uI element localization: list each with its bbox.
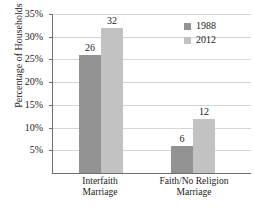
y-tick-label-10: 10% (9, 123, 43, 133)
legend-swatch-1988-icon (184, 23, 191, 30)
legend-label-1988: 1988 (196, 20, 216, 32)
bar-faith-no-religion-2012: 12 (193, 119, 215, 174)
y-tick-label-35: 35% (9, 9, 43, 19)
bar-value-interfaith-1988: 26 (85, 43, 95, 53)
x-category-label-faith-no-religion: Faith/No Religion Marriage (144, 176, 244, 198)
x-category-label-faith-no-religion-line1: Faith/No Religion (144, 176, 244, 187)
legend-label-2012: 2012 (196, 34, 216, 46)
y-tick-label-30: 30% (9, 32, 43, 42)
y-tick-label-20: 20% (9, 77, 43, 87)
x-category-label-interfaith-line2: Marriage (58, 187, 142, 198)
y-tick-20: 20% (49, 82, 53, 83)
bar-value-faith-no-religion-1988: 6 (180, 134, 185, 144)
legend-swatch-2012-icon (184, 37, 191, 44)
y-tick-label-25: 25% (9, 54, 43, 64)
bar-faith-no-religion-1988: 6 (171, 146, 193, 173)
y-tick-15: 15% (49, 105, 53, 106)
bar-chart: Percentage of Households 35% 30% 25% 20%… (0, 0, 254, 208)
chart-title-cropped (0, 0, 254, 6)
y-axis-title: Percentage of Households (13, 0, 24, 136)
y-tick-35: 35% (49, 14, 53, 15)
plot-area: 35% 30% 25% 20% 15% 10% 5% 26 (52, 14, 251, 174)
y-tick-25: 25% (49, 59, 53, 60)
bar-value-faith-no-religion-2012: 12 (199, 107, 209, 117)
y-tick-10: 10% (49, 128, 53, 129)
legend: 1988 2012 (184, 20, 216, 48)
gridline-30 (53, 37, 251, 38)
y-tick-label-5: 5% (9, 145, 43, 155)
x-category-label-faith-no-religion-line2: Marriage (144, 187, 244, 198)
x-category-label-interfaith: Interfaith Marriage (58, 176, 142, 198)
bar-value-interfaith-2012: 32 (107, 16, 117, 26)
bar-interfaith-1988: 26 (79, 55, 101, 173)
y-tick-5: 5% (49, 150, 53, 151)
x-category-label-interfaith-line1: Interfaith (58, 176, 142, 187)
gridline-35 (53, 14, 251, 15)
legend-item-1988: 1988 (184, 20, 216, 32)
legend-item-2012: 2012 (184, 34, 216, 46)
y-tick-label-15: 15% (9, 100, 43, 110)
y-tick-30: 30% (49, 37, 53, 38)
bar-interfaith-2012: 32 (101, 28, 123, 173)
